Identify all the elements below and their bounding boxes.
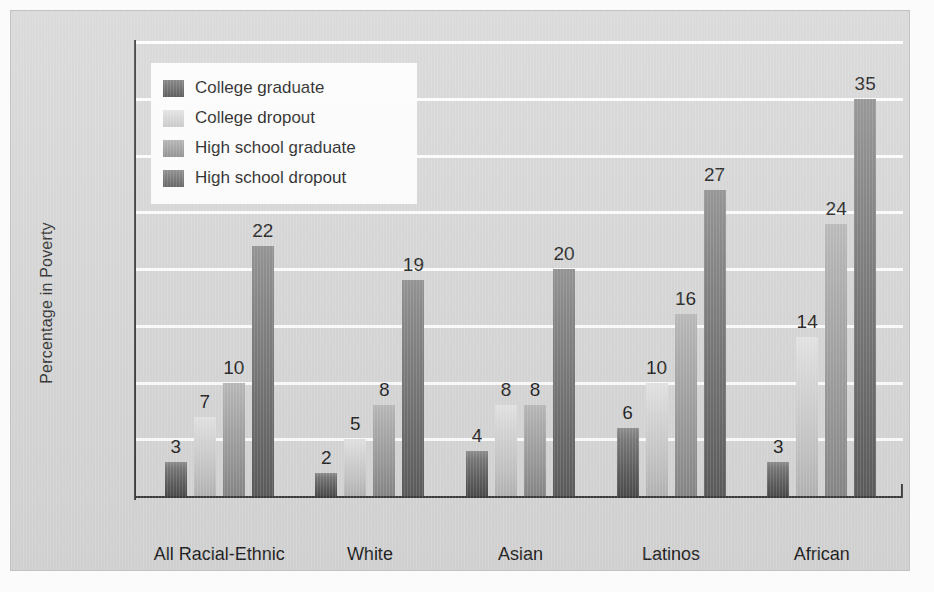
bar-fill	[646, 383, 668, 497]
bar[interactable]: 8	[373, 405, 395, 496]
bar[interactable]: 27	[704, 190, 726, 496]
bar-value-label: 35	[841, 73, 889, 95]
bar-fill	[373, 405, 395, 496]
bar[interactable]: 5	[344, 439, 366, 496]
bar[interactable]: 8	[524, 405, 546, 496]
bar-fill	[165, 462, 187, 496]
bar[interactable]: 14	[796, 337, 818, 496]
bar[interactable]: 35	[854, 99, 876, 496]
legend-swatch-icon	[163, 110, 184, 127]
bar-value-label: 6	[604, 402, 652, 424]
bar-fill	[495, 405, 517, 496]
legend-item[interactable]: High school graduate	[163, 133, 405, 163]
bar[interactable]: 24	[825, 224, 847, 496]
bar-group: 6101627	[617, 42, 726, 496]
legend-item[interactable]: College graduate	[163, 73, 405, 103]
legend-swatch-icon	[163, 140, 184, 157]
y-axis-title: Percentage in Poverty	[38, 158, 56, 448]
bar-fill	[402, 280, 424, 496]
bar-fill	[854, 99, 876, 496]
bar[interactable]: 10	[223, 383, 245, 497]
bar-value-label: 3	[152, 436, 200, 458]
legend-swatch-icon	[163, 170, 184, 187]
bar-value-label: 27	[691, 164, 739, 186]
chart-figure: Percentage in Poverty 40%35%30%25%20%15%…	[10, 10, 910, 571]
bar[interactable]: 8	[495, 405, 517, 496]
chart-legend: College graduate College dropout High sc…	[151, 63, 417, 204]
legend-label: High school graduate	[195, 138, 356, 158]
bar-value-label: 2	[302, 447, 350, 469]
legend-label: High school dropout	[195, 168, 346, 188]
bar-fill	[194, 417, 216, 496]
bar[interactable]: 10	[646, 383, 668, 497]
bar-value-label: 4	[453, 425, 501, 447]
bar-fill	[466, 451, 488, 496]
legend-item[interactable]: High school dropout	[163, 163, 405, 193]
bar-fill	[767, 462, 789, 496]
bar-value-label: 8	[360, 379, 408, 401]
bar-value-label: 20	[540, 243, 588, 265]
bar-value-label: 19	[389, 254, 437, 276]
legend-swatch-icon	[163, 80, 184, 97]
bar-fill	[825, 224, 847, 496]
bar-value-label: 16	[662, 288, 710, 310]
bar[interactable]: 20	[553, 269, 575, 496]
bar[interactable]: 22	[252, 246, 274, 496]
bar-value-label: 10	[210, 357, 258, 379]
legend-item[interactable]: College dropout	[163, 103, 405, 133]
x-axis-line	[134, 496, 903, 498]
bar-fill	[796, 337, 818, 496]
bar-value-label: 7	[181, 391, 229, 413]
bar-value-label: 24	[812, 198, 860, 220]
bar[interactable]: 6	[617, 428, 639, 496]
bar-value-label: 22	[239, 220, 287, 242]
bar-value-label: 5	[331, 413, 379, 435]
bar[interactable]: 3	[767, 462, 789, 496]
legend-label: College graduate	[195, 78, 324, 98]
bar[interactable]: 19	[402, 280, 424, 496]
bar-fill	[524, 405, 546, 496]
bar[interactable]: 2	[315, 473, 337, 496]
legend-label: College dropout	[195, 108, 315, 128]
category-label-line: Americans	[717, 567, 910, 571]
category-label-line: African	[717, 543, 910, 567]
x-axis-right-tick	[901, 484, 903, 498]
bar[interactable]: 7	[194, 417, 216, 496]
bar-fill	[617, 428, 639, 496]
bar-fill	[344, 439, 366, 496]
bar[interactable]: 16	[675, 314, 697, 496]
bar-fill	[223, 383, 245, 497]
bar[interactable]: 3	[165, 462, 187, 496]
bar-fill	[252, 246, 274, 496]
bar-value-label: 10	[633, 357, 681, 379]
category-label: AfricanAmericans	[717, 543, 910, 571]
bar-fill	[315, 473, 337, 496]
bar[interactable]: 4	[466, 451, 488, 496]
bar-fill	[675, 314, 697, 496]
bar-value-label: 14	[783, 311, 831, 333]
bar-value-label: 3	[754, 436, 802, 458]
bar-group: 48820	[466, 42, 575, 496]
bar-group: 3142435	[767, 42, 876, 496]
bar-fill	[553, 269, 575, 496]
category-label-line: Americans	[416, 567, 626, 571]
bar-value-label: 8	[511, 379, 559, 401]
bar-fill	[704, 190, 726, 496]
